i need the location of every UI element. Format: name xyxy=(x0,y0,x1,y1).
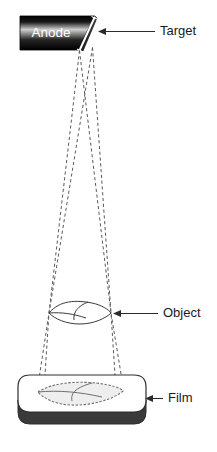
xray-geometry-diagram: Anode Target xyxy=(0,0,217,452)
ray-focal-left-to-object-left xyxy=(37,51,80,393)
object-arrowhead-icon xyxy=(113,310,121,317)
leader-film: Film xyxy=(145,390,193,405)
target-arrowhead-icon xyxy=(98,28,106,35)
anode-label: Anode xyxy=(31,25,70,40)
target-label: Target xyxy=(160,23,197,38)
object-label: Object xyxy=(163,305,201,320)
film-plate xyxy=(18,375,146,424)
object-body xyxy=(49,301,111,324)
xray-beam xyxy=(37,48,124,393)
anode-assembly: Anode xyxy=(20,16,97,52)
leader-target: Target xyxy=(98,23,197,38)
ray-focal-left-to-object-right xyxy=(80,51,117,391)
diagram-canvas: Anode Target xyxy=(0,0,217,452)
ray-focal-right-to-object-right xyxy=(93,48,125,393)
leader-object: Object xyxy=(113,305,201,320)
film-label: Film xyxy=(168,390,193,405)
object-inner-crescent xyxy=(74,302,88,320)
